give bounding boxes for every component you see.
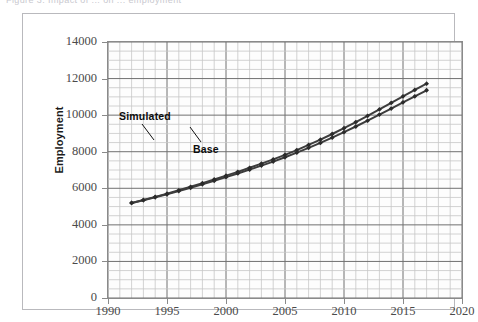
plot-area xyxy=(107,41,463,299)
x-tick-label: 2000 xyxy=(204,305,248,317)
y-tick-label: 6000 xyxy=(45,182,97,192)
figure-frame: Employment 02000400060008000100001200014… xyxy=(22,13,455,310)
y-tick-label: 4000 xyxy=(45,219,97,229)
x-tick-label: 2005 xyxy=(263,305,307,317)
x-tick-mark xyxy=(344,299,345,304)
y-tick-label: 12000 xyxy=(45,73,97,83)
x-tick-mark xyxy=(285,299,286,304)
x-tick-label: 2020 xyxy=(440,305,478,317)
x-tick-label: 1990 xyxy=(86,305,130,317)
y-tick-label: 0 xyxy=(45,292,97,302)
y-tick-label: 10000 xyxy=(45,109,97,119)
y-tick-label: 14000 xyxy=(45,36,97,46)
x-tick-label: 1995 xyxy=(145,305,189,317)
x-tick-mark xyxy=(226,299,227,304)
figure-caption: Figure 3. Impact of ... on ... employmen… xyxy=(6,0,181,5)
x-tick-mark xyxy=(403,299,404,304)
y-tick-label: 8000 xyxy=(45,146,97,156)
y-tick-label: 2000 xyxy=(45,255,97,265)
x-tick-mark xyxy=(108,299,109,304)
data-series-layer xyxy=(108,42,462,298)
figure-caption-strip: Figure 3. Impact of ... on ... employmen… xyxy=(0,0,478,9)
x-tick-label: 2015 xyxy=(381,305,425,317)
x-tick-label: 2010 xyxy=(322,305,366,317)
x-tick-mark xyxy=(462,299,463,304)
annotation-base: Base xyxy=(193,143,219,155)
annotation-simulated: Simulated xyxy=(119,110,171,122)
x-tick-mark xyxy=(167,299,168,304)
